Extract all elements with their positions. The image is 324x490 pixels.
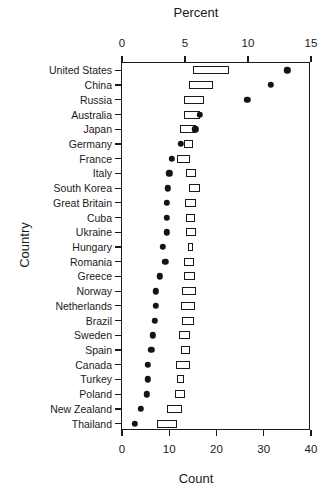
category-label: Cuba bbox=[87, 212, 112, 224]
count-axis-tick bbox=[169, 430, 170, 436]
category-label: Romania bbox=[70, 256, 112, 268]
category-axis-tick bbox=[115, 70, 121, 71]
count-dot bbox=[138, 406, 144, 412]
percent-range-bar bbox=[157, 420, 177, 428]
count-axis-tick-label: 20 bbox=[210, 443, 223, 455]
count-dot bbox=[148, 347, 154, 353]
category-axis-tick bbox=[115, 84, 121, 85]
percent-axis-tick bbox=[184, 56, 185, 62]
percent-range-bar bbox=[184, 96, 204, 104]
category-axis-tick bbox=[115, 276, 121, 277]
category-axis-tick bbox=[115, 364, 121, 365]
count-dot bbox=[144, 391, 150, 397]
percent-range-bar bbox=[193, 66, 230, 74]
category-axis-tick bbox=[115, 129, 121, 130]
count-dot bbox=[153, 303, 159, 309]
category-axis-tick bbox=[115, 349, 121, 350]
percent-range-bar bbox=[189, 81, 213, 89]
category-axis-tick bbox=[115, 379, 121, 380]
count-dot bbox=[164, 229, 170, 235]
category-label: Russia bbox=[80, 94, 112, 106]
count-dot bbox=[164, 214, 170, 220]
category-label: France bbox=[79, 153, 112, 165]
plot-area: 051015010203040United StatesChinaRussiaA… bbox=[121, 62, 310, 430]
category-axis-tick bbox=[115, 423, 121, 424]
category-axis-tick bbox=[115, 202, 121, 203]
count-dot bbox=[192, 126, 198, 132]
count-dot bbox=[162, 259, 168, 265]
category-label: Brazil bbox=[86, 315, 112, 327]
percent-range-bar bbox=[181, 346, 190, 354]
category-label: Italy bbox=[93, 167, 112, 179]
percent-range-bar bbox=[189, 184, 200, 192]
percent-range-bar bbox=[177, 375, 183, 383]
percent-range-bar bbox=[185, 199, 196, 207]
category-label: Germany bbox=[69, 138, 112, 150]
percent-axis-tick-label: 10 bbox=[242, 37, 255, 49]
category-axis-tick bbox=[115, 143, 121, 144]
percent-range-bar bbox=[186, 169, 196, 177]
count-dot bbox=[132, 420, 138, 426]
count-dot bbox=[152, 317, 158, 323]
category-label: South Korea bbox=[54, 182, 112, 194]
count-dot bbox=[166, 170, 172, 176]
percent-range-bar bbox=[177, 155, 190, 163]
category-axis-tick bbox=[115, 232, 121, 233]
percent-range-bar bbox=[182, 287, 196, 295]
count-dot bbox=[197, 111, 203, 117]
count-axis-tick-label: 40 bbox=[305, 443, 318, 455]
bottom-axis-title: Count bbox=[0, 471, 324, 486]
percent-range-bar bbox=[184, 272, 195, 280]
percent-range-bar bbox=[182, 317, 193, 325]
category-label: Hungary bbox=[72, 241, 112, 253]
category-axis-tick bbox=[115, 335, 121, 336]
percent-range-bar bbox=[184, 258, 194, 266]
percent-axis-tick bbox=[247, 56, 248, 62]
category-label: Ukraine bbox=[76, 226, 112, 238]
category-label: Norway bbox=[76, 285, 112, 297]
category-label: Thailand bbox=[72, 418, 112, 430]
count-dot bbox=[160, 244, 166, 250]
category-axis-tick bbox=[115, 188, 121, 189]
count-dot bbox=[168, 155, 174, 161]
category-axis-tick bbox=[115, 99, 121, 100]
count-dot bbox=[268, 82, 274, 88]
count-axis-tick bbox=[263, 430, 264, 436]
category-axis-tick bbox=[115, 158, 121, 159]
category-axis-tick bbox=[115, 261, 121, 262]
category-axis-tick bbox=[115, 291, 121, 292]
percent-range-bar bbox=[176, 361, 190, 369]
percent-axis-tick bbox=[121, 56, 122, 62]
percent-range-bar bbox=[179, 331, 190, 339]
category-axis-tick bbox=[115, 394, 121, 395]
count-dot bbox=[164, 200, 170, 206]
count-axis-tick bbox=[310, 430, 311, 436]
category-axis-tick bbox=[115, 217, 121, 218]
percent-axis-tick-label: 15 bbox=[305, 37, 318, 49]
percent-range-bar bbox=[167, 405, 182, 413]
top-axis-title: Percent bbox=[0, 5, 324, 20]
count-dot bbox=[153, 288, 159, 294]
category-label: Turkey bbox=[80, 373, 112, 385]
percent-range-bar bbox=[175, 390, 185, 398]
count-axis-tick bbox=[216, 430, 217, 436]
category-label: Sweden bbox=[74, 329, 112, 341]
category-label: China bbox=[85, 79, 112, 91]
count-dot bbox=[284, 67, 290, 73]
y-axis-title: Country bbox=[17, 222, 32, 268]
category-axis-tick bbox=[115, 173, 121, 174]
category-label: Netherlands bbox=[55, 300, 112, 312]
category-label: Great Britain bbox=[53, 197, 112, 209]
category-label: Australia bbox=[71, 109, 112, 121]
percent-range-bar bbox=[181, 302, 195, 310]
percent-range-bar bbox=[186, 214, 195, 222]
count-axis-tick-label: 10 bbox=[163, 443, 176, 455]
count-axis-tick bbox=[121, 430, 122, 436]
percent-axis-tick bbox=[310, 56, 311, 62]
category-label: Greece bbox=[78, 270, 112, 282]
category-axis-tick bbox=[115, 114, 121, 115]
category-label: Canada bbox=[75, 359, 112, 371]
category-axis-tick bbox=[115, 305, 121, 306]
category-label: Japan bbox=[83, 123, 112, 135]
category-axis-tick bbox=[115, 320, 121, 321]
